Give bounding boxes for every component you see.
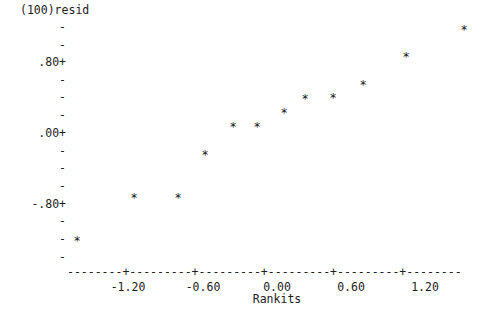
data-point: * <box>359 79 366 91</box>
normal-probability-plot: (100)resid .80+.00+-.80+----------- ----… <box>0 0 496 321</box>
data-point: * <box>402 51 409 63</box>
data-point: * <box>229 121 236 133</box>
data-point: * <box>301 93 308 105</box>
data-series-layer: ************ <box>0 0 496 321</box>
data-point: * <box>174 192 181 204</box>
data-point: * <box>253 121 260 133</box>
data-point: * <box>280 107 287 119</box>
data-point: * <box>329 92 336 104</box>
data-point: * <box>73 235 80 247</box>
data-point: * <box>201 149 208 161</box>
data-point: * <box>460 24 467 36</box>
data-point: * <box>130 192 137 204</box>
